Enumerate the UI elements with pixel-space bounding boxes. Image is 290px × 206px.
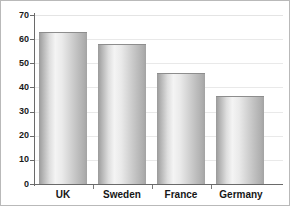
- y-tick-30: [30, 112, 35, 113]
- x-label-sweden: Sweden: [98, 189, 146, 201]
- x-axis-line: [34, 184, 283, 185]
- y-tick-label-20: 20: [3, 131, 29, 140]
- x-tick-3: [211, 185, 212, 189]
- gridline-70: [35, 15, 283, 16]
- y-tick-label-60: 60: [3, 35, 29, 44]
- x-label-france: France: [157, 189, 205, 201]
- y-tick-60: [30, 39, 35, 40]
- bar-sweden: [98, 44, 146, 184]
- y-tick-label-10: 10: [3, 155, 29, 164]
- y-tick-label-30: 30: [3, 107, 29, 116]
- y-tick-label-40: 40: [3, 83, 29, 92]
- y-tick-label-0: 0: [3, 180, 29, 189]
- y-tick-label-70: 70: [3, 11, 29, 20]
- bar-uk: [39, 32, 87, 184]
- y-tick-10: [30, 160, 35, 161]
- y-axis-tick-labels: 70 60 50 40 30 20 10 0: [1, 1, 29, 206]
- bar-germany: [216, 96, 264, 184]
- plot-area: [35, 15, 283, 184]
- x-label-uk: UK: [39, 189, 87, 201]
- x-tick-2: [152, 185, 153, 189]
- bar-france: [157, 73, 205, 184]
- bar-chart-figure: 70 60 50 40 30 20 10 0 UK Sweden France …: [0, 0, 290, 206]
- x-tick-1: [93, 185, 94, 189]
- x-label-germany: Germany: [213, 189, 269, 201]
- y-tick-40: [30, 87, 35, 88]
- y-tick-label-50: 50: [3, 59, 29, 68]
- y-tick-50: [30, 63, 35, 64]
- y-tick-70: [30, 15, 35, 16]
- y-tick-20: [30, 136, 35, 137]
- y-tick-0: [30, 184, 35, 185]
